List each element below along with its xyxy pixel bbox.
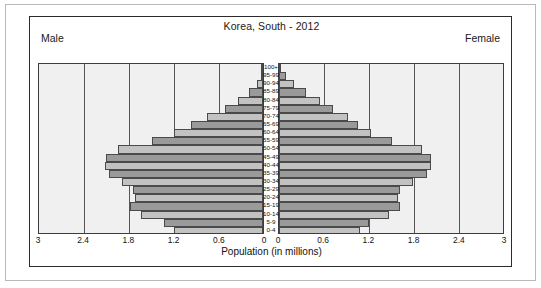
- age-label-75-79: 75-79: [246, 104, 296, 112]
- xtick-male-3: 3: [36, 235, 41, 245]
- male-side-label: Male: [41, 32, 64, 44]
- xtick-male-0.6: 0.6: [213, 235, 225, 245]
- screenshot-root: Korea, South - 2012 Male Female 100+95-9…: [0, 0, 541, 288]
- bar-male-35-39: [109, 170, 263, 178]
- xtick-female-3: 3: [502, 235, 507, 245]
- age-label-0-4: 0-4: [246, 226, 296, 234]
- female-side-label: Female: [465, 32, 500, 44]
- age-group-labels: 100+95-9990-9485-8980-8475-7970-7465-696…: [264, 63, 278, 234]
- xtick-male-1.8: 1.8: [123, 235, 135, 245]
- age-label-45-49: 45-49: [246, 153, 296, 161]
- bar-female-15-19: [279, 202, 400, 210]
- age-label-90-94: 90-94: [246, 79, 296, 87]
- xtick-female-1.2: 1.2: [363, 235, 375, 245]
- bar-female-50-54: [279, 145, 422, 153]
- male-bars: [39, 64, 263, 233]
- xtick-female-0.6: 0.6: [317, 235, 329, 245]
- xtick-male-1.2: 1.2: [168, 235, 180, 245]
- age-label-20-24: 20-24: [246, 193, 296, 201]
- age-label-5-9: 5-9: [246, 218, 296, 226]
- age-label-50-54: 50-54: [246, 144, 296, 152]
- xtick-male-0: 0: [262, 235, 267, 245]
- xtick-female-2.4: 2.4: [453, 235, 465, 245]
- bar-female-20-24: [279, 194, 398, 202]
- bar-male-10-14: [141, 211, 263, 219]
- age-label-15-19: 15-19: [246, 201, 296, 209]
- bar-male-45-49: [106, 154, 263, 162]
- xtick-male-2.4: 2.4: [77, 235, 89, 245]
- bar-male-25-29: [133, 186, 263, 194]
- age-label-25-29: 25-29: [246, 185, 296, 193]
- bar-male-15-19: [130, 202, 263, 210]
- age-label-60-64: 60-64: [246, 128, 296, 136]
- x-axis-title: Population (in millions): [30, 246, 513, 257]
- xtick-female-0: 0: [276, 235, 281, 245]
- xtick-female-1.8: 1.8: [408, 235, 420, 245]
- chart-card: Korea, South - 2012 Male Female 100+95-9…: [29, 16, 512, 267]
- age-label-65-69: 65-69: [246, 120, 296, 128]
- female-panel: [278, 63, 504, 234]
- age-label-40-44: 40-44: [246, 161, 296, 169]
- bar-female-35-39: [279, 170, 427, 178]
- age-label-35-39: 35-39: [246, 169, 296, 177]
- age-label-10-14: 10-14: [246, 210, 296, 218]
- female-bars: [279, 64, 503, 233]
- bar-female-30-34: [279, 178, 413, 186]
- bar-female-25-29: [279, 186, 400, 194]
- age-label-70-74: 70-74: [246, 112, 296, 120]
- age-label-85-89: 85-89: [246, 87, 296, 95]
- bar-female-45-49: [279, 154, 431, 162]
- chart-title: Korea, South - 2012: [30, 20, 513, 32]
- age-label-100+: 100+: [246, 63, 296, 71]
- age-label-55-59: 55-59: [246, 136, 296, 144]
- bar-male-50-54: [118, 145, 263, 153]
- age-label-80-84: 80-84: [246, 96, 296, 104]
- population-pyramid-plot: 100+95-9990-9485-8980-8475-7970-7465-696…: [38, 63, 504, 234]
- age-label-30-34: 30-34: [246, 177, 296, 185]
- bar-female-40-44: [279, 162, 431, 170]
- age-label-95-99: 95-99: [246, 71, 296, 79]
- bar-male-30-34: [122, 178, 263, 186]
- bar-male-20-24: [135, 194, 263, 202]
- male-panel: [38, 63, 264, 234]
- bar-male-40-44: [105, 162, 263, 170]
